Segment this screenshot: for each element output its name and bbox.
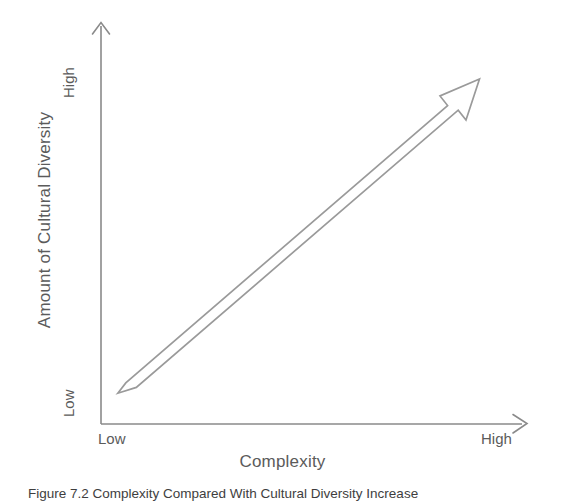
y-axis-title: Amount of Cultural Diversity <box>34 10 56 430</box>
y-axis <box>93 23 110 425</box>
trend-arrow-shape <box>118 79 480 393</box>
figure-caption: Figure 7.2 Complexity Compared With Cult… <box>28 486 548 501</box>
figure-container: Complexity Low High Amount of Cultural D… <box>0 0 565 502</box>
x-axis-title: Complexity <box>0 452 565 472</box>
x-axis-low-label: Low <box>98 430 126 447</box>
x-axis-high-label: High <box>481 430 512 447</box>
x-axis <box>101 415 527 434</box>
y-axis-high-label: High <box>60 38 78 98</box>
chart-canvas <box>0 0 565 502</box>
y-axis-low-label: Low <box>60 357 78 417</box>
trend-arrow <box>118 79 480 393</box>
